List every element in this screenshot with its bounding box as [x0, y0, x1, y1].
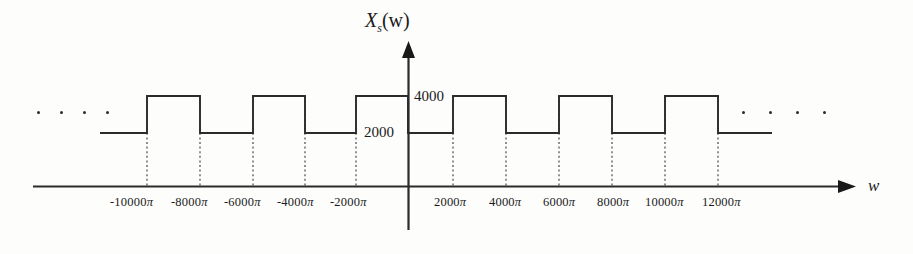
- tick-value: -6000: [224, 195, 254, 209]
- x-tick-label-2000pi: 2000π: [434, 196, 466, 209]
- tick-value: 10000: [645, 195, 677, 209]
- y-axis-arrowhead: [402, 41, 415, 58]
- x-tick-label-neg10000pi: -10000π: [110, 196, 153, 209]
- tick-value: 6000: [543, 195, 569, 209]
- tick-unit: π: [515, 195, 521, 209]
- tick-unit: π: [254, 195, 260, 209]
- x-tick-label-10000pi: 10000π: [645, 196, 684, 209]
- amplitude-label-2000: 2000: [364, 125, 394, 140]
- x-axis-label: w: [868, 177, 879, 194]
- tick-unit: π: [460, 195, 466, 209]
- ellipsis-dot-left: [83, 111, 86, 114]
- x-axis-arrowhead: [838, 180, 856, 193]
- ellipsis-dot-right: [823, 111, 826, 114]
- tick-unit: π: [307, 195, 313, 209]
- tick-unit: π: [623, 195, 629, 209]
- plot-canvas: [0, 0, 913, 254]
- dropline-group: [147, 96, 718, 186]
- tick-unit: π: [569, 195, 575, 209]
- tick-value: 12000: [702, 195, 734, 209]
- x-tick-label-neg4000pi: -4000π: [277, 196, 314, 209]
- x-tick-label-4000pi: 4000π: [489, 196, 521, 209]
- x-tick-label-12000pi: 12000π: [702, 196, 741, 209]
- tick-value: 4000: [489, 195, 515, 209]
- x-tick-label-neg8000pi: -8000π: [171, 196, 208, 209]
- x-tick-label-8000pi: 8000π: [597, 196, 629, 209]
- tick-unit: π: [360, 195, 366, 209]
- ellipsis-dot-right: [796, 111, 799, 114]
- spectrum-figure: Xs(w) w 4000 2000 -10000π -8000π -6000π …: [0, 0, 913, 254]
- amplitude-label-4000: 4000: [414, 89, 444, 104]
- tick-value: 2000: [434, 195, 460, 209]
- x-tick-label-neg2000pi: -2000π: [330, 196, 367, 209]
- tick-value: -8000: [171, 195, 201, 209]
- ellipsis-dot-left: [60, 111, 63, 114]
- tick-value: -10000: [110, 195, 147, 209]
- x-tick-label-6000pi: 6000π: [543, 196, 575, 209]
- ellipsis-dot-left: [37, 111, 40, 114]
- tick-unit: π: [677, 195, 683, 209]
- tick-unit: π: [734, 195, 740, 209]
- tick-value: 8000: [597, 195, 623, 209]
- y-axis-label-main: X: [365, 9, 377, 31]
- tick-unit: π: [147, 195, 153, 209]
- y-axis-label-argument: (w): [382, 9, 410, 31]
- ellipsis-dot-right: [769, 111, 772, 114]
- ellipsis-dot-left: [106, 111, 109, 114]
- tick-value: -2000: [330, 195, 360, 209]
- tick-value: -4000: [277, 195, 307, 209]
- ellipsis-dot-right: [742, 111, 745, 114]
- x-tick-label-neg6000pi: -6000π: [224, 196, 261, 209]
- y-axis-label: Xs(w): [365, 10, 410, 34]
- tick-unit: π: [201, 195, 207, 209]
